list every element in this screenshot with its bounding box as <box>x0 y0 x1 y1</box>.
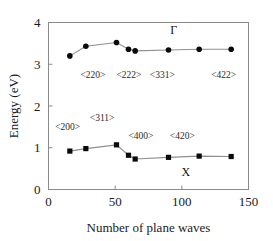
series-label: Γ <box>170 23 177 37</box>
x-tick-label: 150 <box>239 194 259 209</box>
data-point-marker <box>166 155 171 160</box>
x-axis-tick-labels: 050100150 <box>45 194 258 209</box>
data-point-marker <box>126 153 131 158</box>
x-axis-title: Number of plane waves <box>87 220 211 235</box>
y-axis-tick-labels: 01234 <box>34 15 41 197</box>
series-name-labels: ΓX <box>170 23 190 179</box>
y-tick-label: 2 <box>34 99 41 114</box>
y-tick-label: 0 <box>34 182 41 197</box>
y-tick-label: 1 <box>34 140 41 155</box>
plot-frame <box>49 23 249 190</box>
miller-index-annotations: <220><222><331><422><200><311><400><420> <box>55 70 236 141</box>
annotation-label: <400> <box>129 131 154 141</box>
data-point-marker <box>229 154 234 159</box>
data-point-marker <box>228 46 234 52</box>
y-tick-label: 3 <box>34 57 41 72</box>
annotation-label: <331> <box>150 70 175 80</box>
x-tick-label: 0 <box>45 194 52 209</box>
series-label: X <box>181 165 190 179</box>
x-axis-ticks <box>49 186 249 190</box>
data-point-marker <box>83 43 89 49</box>
x-tick-label: 50 <box>109 194 122 209</box>
annotation-label: <422> <box>211 70 236 80</box>
y-tick-label: 4 <box>34 15 41 30</box>
series-line-X <box>70 145 231 159</box>
series-line-Γ <box>70 43 231 56</box>
data-point-marker <box>132 48 138 54</box>
data-point-marker <box>126 46 132 52</box>
data-point-marker <box>67 148 72 153</box>
y-axis-title: Energy (eV) <box>6 74 21 138</box>
data-point-marker <box>67 53 73 59</box>
data-point-marker <box>133 156 138 161</box>
data-point-marker <box>197 154 202 159</box>
annotation-label: <420> <box>170 131 195 141</box>
annotation-label: <222> <box>117 70 142 80</box>
x-tick-label: 100 <box>172 194 192 209</box>
data-point-marker <box>196 46 202 52</box>
data-point-marker <box>83 146 88 151</box>
data-point-marker <box>114 40 120 46</box>
y-axis-ticks <box>49 23 53 190</box>
annotation-label: <220> <box>81 70 106 80</box>
data-point-marker <box>114 142 119 147</box>
data-point-marker <box>166 47 172 53</box>
annotation-label: <200> <box>55 122 80 132</box>
data-series-layer <box>67 40 234 162</box>
plot-canvas: 050100150 01234 ΓX <220><222><331><422><… <box>0 0 273 241</box>
chart-figure: 050100150 01234 ΓX <220><222><331><422><… <box>0 0 273 241</box>
annotation-label: <311> <box>90 113 115 123</box>
